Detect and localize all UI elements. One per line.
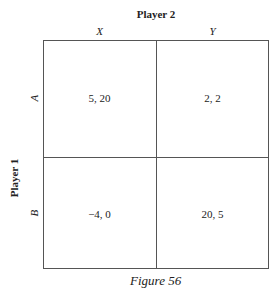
row-header-a: A — [28, 88, 40, 108]
column-player-label: Player 2 — [43, 8, 269, 20]
figure-caption: Figure 56 — [130, 273, 270, 289]
row-player-label: Player 1 — [8, 148, 20, 208]
row-header-b: B — [28, 203, 40, 223]
column-header-x: X — [43, 25, 156, 37]
column-header-y: Y — [156, 25, 269, 37]
column-divider — [156, 40, 157, 269]
payoff-cell-a-x: 5, 20 — [43, 92, 156, 104]
row-divider — [43, 157, 269, 158]
payoff-cell-b-y: 20, 5 — [156, 208, 269, 220]
payoff-cell-b-x: −4, 0 — [43, 208, 156, 220]
payoff-cell-a-y: 2, 2 — [156, 92, 269, 104]
